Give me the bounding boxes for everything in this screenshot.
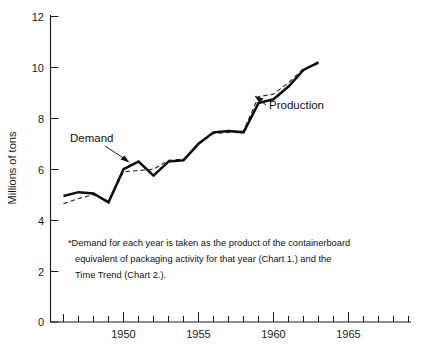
demand-label: Demand	[70, 132, 113, 144]
y-axis-title: Millions of tons	[6, 131, 18, 204]
y-tick-label-6: 6	[38, 164, 44, 176]
y-tick-label-8: 8	[38, 113, 44, 125]
x-tick-label-1955: 1955	[186, 328, 210, 340]
y-tick-label-10: 10	[32, 62, 44, 74]
footnote: *Demand for each year is taken as the pr…	[68, 238, 350, 280]
chart-figure: 12 10 8 6 4 2 0 Millions of tons	[0, 0, 421, 354]
x-tick-labels: 1950 1955 1960 1965	[111, 328, 360, 340]
x-tick-marks	[64, 312, 409, 322]
x-tick-label-1960: 1960	[261, 328, 285, 340]
y-tick-labels: 12 10 8 6 4 2 0	[32, 11, 44, 329]
y-tick-label-0: 0	[38, 316, 44, 328]
production-label: Production	[269, 99, 324, 111]
footnote-line-3: Time Trend (Chart 2.).	[75, 270, 166, 280]
demand-annotation: Demand	[70, 132, 130, 163]
y-tick-label-12: 12	[32, 11, 44, 23]
footnote-line-1: *Demand for each year is taken as the pr…	[68, 238, 350, 248]
y-tick-label-4: 4	[38, 215, 44, 227]
y-tick-label-2: 2	[38, 266, 44, 278]
footnote-line-2: equivalent of packaging activity for tha…	[75, 254, 331, 264]
y-tick-marks	[51, 17, 59, 323]
production-annotation: Production	[255, 96, 324, 111]
x-tick-label-1950: 1950	[111, 328, 135, 340]
x-tick-label-1965: 1965	[336, 328, 360, 340]
chart-canvas: 12 10 8 6 4 2 0 Millions of tons	[0, 0, 421, 354]
